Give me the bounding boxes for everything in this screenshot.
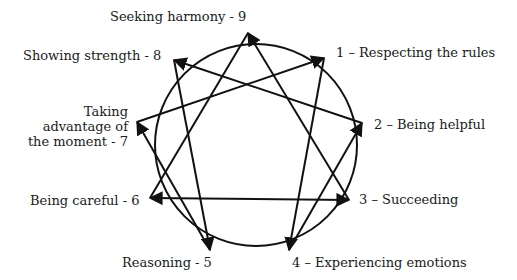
label-point-1: 1 – Respecting the rules: [336, 45, 495, 60]
label-point-5: Reasoning - 5: [122, 255, 212, 270]
edge-6-9: [150, 33, 248, 198]
edge-3-9: [248, 33, 349, 200]
label-point-9: Seeking harmony - 9: [110, 9, 246, 24]
edge-8-5: [174, 60, 210, 250]
label-point-4: 4 – Experiencing emotions: [292, 255, 467, 270]
label-point-6: Being careful - 6: [30, 193, 139, 208]
edge-2-8: [174, 60, 362, 123]
label-point-2: 2 – Being helpful: [374, 117, 485, 132]
label-point-7-line1: Taking: [22, 104, 128, 119]
label-point-7: Taking advantage of the moment - 7: [22, 104, 128, 149]
label-point-3: 3 – Succeeding: [359, 192, 458, 207]
label-point-7-line3: the moment - 7: [22, 134, 128, 149]
label-point-8: Showing strength - 8: [23, 48, 161, 63]
enneagram-circle: [155, 44, 357, 246]
enneagram-lines: [137, 33, 362, 250]
edge-5-7: [137, 122, 210, 250]
label-point-7-line2: advantage of: [22, 119, 128, 134]
